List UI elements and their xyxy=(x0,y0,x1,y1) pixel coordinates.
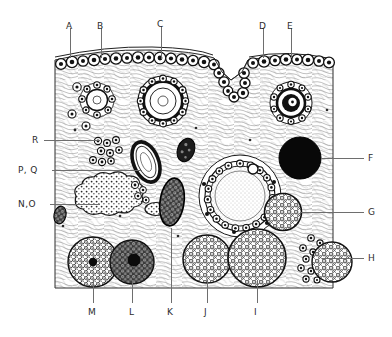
leader-R xyxy=(44,140,100,141)
leader-M xyxy=(93,280,94,303)
leader-G xyxy=(300,212,364,213)
corpus-luteum-I xyxy=(228,229,286,287)
secondary-follicle-C xyxy=(137,75,188,127)
label-J: J xyxy=(204,307,207,317)
label-R: R xyxy=(32,135,39,145)
corpus-albicans-F xyxy=(279,137,321,179)
leader-D xyxy=(263,28,264,58)
label-PQ: P, Q xyxy=(18,165,38,175)
leader-F xyxy=(321,158,364,159)
label-E: E xyxy=(287,21,293,31)
leader-PQ xyxy=(52,170,142,171)
leader-C xyxy=(161,26,162,59)
label-F: F xyxy=(368,153,374,163)
leader-H xyxy=(322,258,364,259)
label-B: B xyxy=(97,21,104,31)
label-K: K xyxy=(167,307,173,317)
leader-J xyxy=(207,280,208,303)
label-G: G xyxy=(368,207,375,217)
leader-B xyxy=(101,28,102,58)
corpus-luteum-G xyxy=(265,194,302,231)
label-L: L xyxy=(129,307,134,317)
leader-K xyxy=(171,228,172,303)
corpus-luteum-right-edge xyxy=(312,242,352,282)
corpus-luteum-J xyxy=(183,235,231,283)
label-M: M xyxy=(88,307,96,317)
label-H: H xyxy=(368,253,375,263)
leader-I xyxy=(257,280,258,303)
label-I: I xyxy=(254,307,257,317)
figure-canvas: A B C D E F G H I J K L M N,O P, Q R xyxy=(0,0,392,337)
label-NO: N,O xyxy=(18,199,36,209)
ovary-histology-illustration xyxy=(0,0,392,337)
leader-E xyxy=(291,28,292,58)
leader-NO xyxy=(50,204,100,205)
leader-L xyxy=(132,280,133,303)
secondary-follicle-E xyxy=(270,81,312,124)
label-A: A xyxy=(66,21,73,31)
label-D: D xyxy=(259,21,266,31)
corpus-luteum-L xyxy=(110,240,154,284)
label-C: C xyxy=(157,19,164,29)
primary-follicle-small xyxy=(79,82,116,119)
leader-A xyxy=(70,28,71,58)
